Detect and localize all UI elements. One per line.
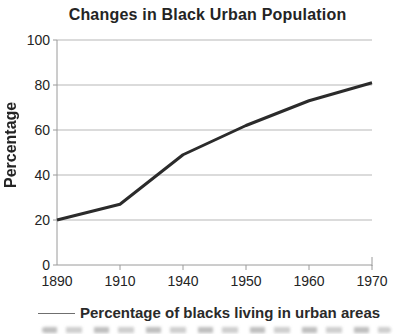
y-tick-label: 40 (16, 168, 50, 182)
y-tick-label: 80 (16, 78, 50, 92)
x-tick-label: 1950 (224, 274, 268, 288)
y-tick-label: 60 (16, 123, 50, 137)
chart-figure: Changes in Black Urban Population Percen… (0, 0, 405, 334)
x-tick-label: 1910 (98, 274, 142, 288)
y-tick-label: 0 (16, 258, 50, 272)
cropped-text-remnant (42, 327, 391, 333)
y-tick-label: 100 (16, 33, 50, 47)
data-line (57, 83, 372, 220)
x-tick-label: 1960 (287, 274, 331, 288)
y-tick-label: 20 (16, 213, 50, 227)
legend-line-marker (38, 313, 75, 314)
x-tick-label: 1890 (35, 274, 79, 288)
legend-label: Percentage of blacks living in urban are… (80, 304, 380, 321)
x-tick-label: 1970 (350, 274, 394, 288)
legend: Percentage of blacks living in urban are… (0, 303, 405, 325)
x-tick-label: 1940 (161, 274, 205, 288)
